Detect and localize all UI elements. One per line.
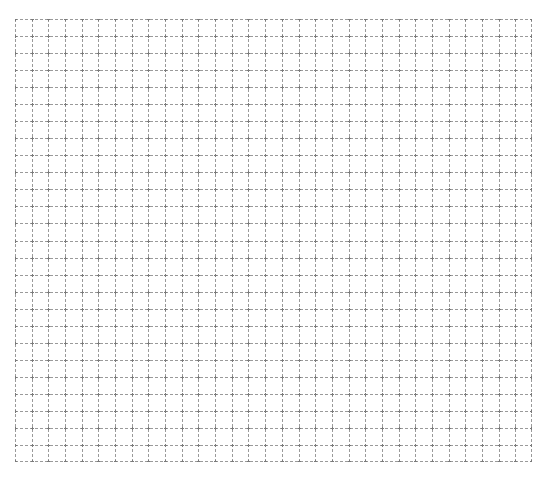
clipped-header-text xyxy=(0,0,551,5)
graph-paper-grid xyxy=(15,19,532,462)
grid-lines xyxy=(15,19,532,462)
